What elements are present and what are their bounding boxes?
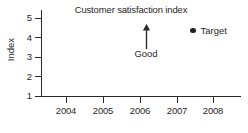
y-tick-mark — [35, 76, 41, 77]
y-tick-mark — [35, 57, 41, 58]
x-tick-label: 2007 — [157, 105, 197, 116]
chart-figure: Customer satisfaction index Index 5 4 3 … — [0, 0, 248, 133]
y-tick-mark — [35, 96, 41, 97]
y-tick-label: 4 — [18, 33, 32, 43]
y-axis-label: Index — [5, 28, 16, 72]
chart-legend: Target — [190, 25, 227, 36]
legend-entry-label: Target — [201, 25, 227, 36]
x-tick-mark — [177, 97, 178, 103]
x-tick-label: 2008 — [193, 105, 233, 116]
x-tick-mark — [103, 97, 104, 103]
legend-marker-filled-circle-icon — [190, 28, 196, 34]
x-tick-mark — [66, 97, 67, 103]
good-up-arrow-icon — [142, 24, 151, 49]
y-tick-label: 3 — [18, 52, 32, 62]
x-tick-label: 2006 — [120, 105, 160, 116]
y-tick-label: 5 — [18, 13, 32, 23]
y-tick-mark — [35, 37, 41, 38]
x-tick-mark — [213, 97, 214, 103]
good-annotation-label: Good — [126, 48, 166, 59]
y-tick-label: 1 — [18, 91, 32, 101]
x-tick-mark — [140, 97, 141, 103]
x-tick-label: 2005 — [83, 105, 123, 116]
y-tick-mark — [35, 18, 41, 19]
y-axis-line — [41, 10, 42, 97]
x-tick-label: 2004 — [46, 105, 86, 116]
chart-title: Customer satisfaction index — [66, 4, 196, 16]
y-tick-label: 2 — [18, 72, 32, 82]
